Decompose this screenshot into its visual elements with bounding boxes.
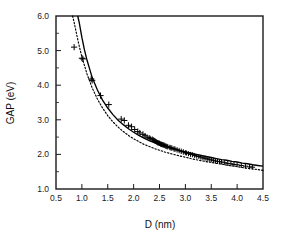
figure-container: 0.51.01.52.02.53.03.54.04.5 1.02.03.04.0… [0, 0, 290, 233]
y-tick-label: 5.0 [37, 46, 49, 56]
x-tick-label: 0.5 [50, 193, 62, 203]
data-point-marker [80, 56, 86, 62]
y-tick-label: 1.0 [37, 184, 49, 194]
gap-vs-diameter-scatter-plot: 0.51.01.52.02.53.03.54.04.5 1.02.03.04.0… [0, 0, 290, 233]
y-tick-label: 4.0 [37, 80, 49, 90]
x-axis-ticks [82, 184, 237, 189]
data-point-markers [71, 44, 255, 170]
data-point-marker [97, 92, 103, 98]
data-point-marker [79, 55, 85, 61]
y-tick-label: 2.0 [37, 149, 49, 159]
x-axis-title: D (nm) [145, 219, 176, 230]
x-axis-tick-labels: 0.51.01.52.02.53.03.54.04.5 [50, 193, 269, 203]
x-tick-label: 4.5 [257, 193, 269, 203]
data-point-marker [71, 44, 77, 50]
x-tick-label: 2.0 [128, 193, 140, 203]
y-axis-ticks [56, 33, 61, 171]
x-tick-label: 2.5 [154, 193, 166, 203]
plot-frame [56, 16, 263, 189]
y-axis-title: GAP (eV) [5, 82, 16, 125]
x-tick-label: 3.5 [205, 193, 217, 203]
x-tick-label: 3.0 [179, 193, 191, 203]
y-axis-tick-labels: 1.02.03.04.05.06.0 [37, 11, 49, 194]
x-tick-label: 4.0 [231, 193, 243, 203]
model-fit-solid-curve [78, 16, 263, 166]
x-tick-label: 1.0 [76, 193, 88, 203]
x-tick-label: 1.5 [102, 193, 114, 203]
y-tick-label: 3.0 [37, 115, 49, 125]
y-tick-label: 6.0 [37, 11, 49, 21]
data-point-marker [121, 117, 127, 123]
